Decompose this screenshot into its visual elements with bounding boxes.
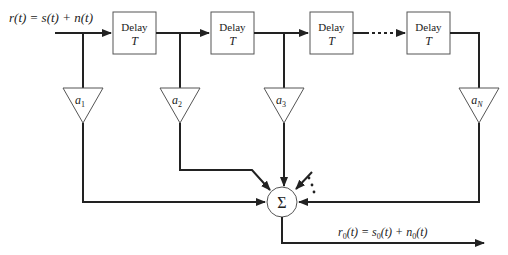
gain-N-to-sum xyxy=(299,123,479,202)
tapped-delay-line-diagram: r(t) = s(t) + n(t) Delay T Delay T Delay… xyxy=(0,0,508,255)
gain-1-to-sum xyxy=(83,123,265,202)
gain-aN: aN xyxy=(459,88,499,123)
gain-a2: a2 xyxy=(160,88,200,123)
input-signal-label: r(t) = s(t) + n(t) xyxy=(9,10,93,25)
svg-text:Σ: Σ xyxy=(277,194,286,211)
svg-text:Delay: Delay xyxy=(415,21,442,33)
gain-2-to-sum xyxy=(180,123,270,190)
extra-input-to-sum xyxy=(296,172,312,189)
output-signal-label: r0(t) = s0(t) + n0(t) xyxy=(338,225,428,241)
svg-text:Delay: Delay xyxy=(121,21,148,33)
delay-block-2: Delay T xyxy=(211,12,254,54)
ellipsis-dots xyxy=(308,177,316,194)
svg-text:Delay: Delay xyxy=(219,21,246,33)
delay-block-3: Delay T xyxy=(310,12,353,54)
gain-a3: a3 xyxy=(264,88,304,123)
svg-text:Delay: Delay xyxy=(318,21,345,33)
delay-block-4: Delay T xyxy=(407,12,450,54)
gain-a1: a1 xyxy=(63,88,103,123)
tap-line-N-top xyxy=(450,33,479,88)
summing-junction: Σ xyxy=(267,187,297,217)
delay-block-1: Delay T xyxy=(113,12,156,54)
